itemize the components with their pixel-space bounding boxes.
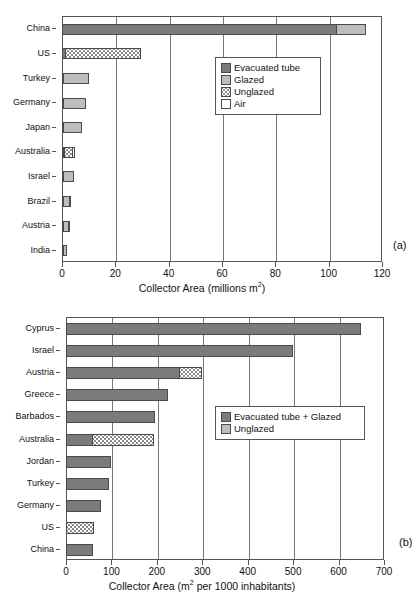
- bar-row: [67, 500, 383, 512]
- x-axis-tick: [202, 560, 203, 565]
- bar-row: [67, 544, 383, 556]
- y-axis-tick-label: Greece: [24, 389, 54, 399]
- x-axis-tick: [111, 560, 112, 565]
- x-axis-tick: [339, 560, 340, 565]
- bar-segment: [66, 434, 93, 446]
- legend-item: Air: [221, 98, 314, 110]
- legend-item: Unglazed: [221, 423, 358, 435]
- x-axis-tick-label: 100: [320, 268, 337, 279]
- legend-label: Evacuated tube: [234, 63, 300, 73]
- y-axis-tick: [56, 527, 60, 528]
- bar-segment: [69, 196, 71, 207]
- legend-swatch-icon: [221, 87, 231, 97]
- x-axis-tick-label: 400: [239, 566, 256, 577]
- bar-row: [63, 147, 381, 158]
- legend-swatch-icon: [221, 63, 231, 73]
- bar-row: [63, 171, 381, 182]
- legend-label: Evacuated tube + Glazed: [234, 412, 341, 422]
- chart-panel-a: ChinaUSTurkeyGermanyJapanAustraliaIsrael…: [0, 0, 404, 297]
- bar-segment: [179, 367, 203, 379]
- y-axis-tick: [56, 505, 60, 506]
- bar-row: [63, 122, 381, 133]
- x-axis-tick-label: 500: [285, 566, 302, 577]
- bar-segment: [72, 147, 75, 158]
- bar-row: [67, 345, 383, 357]
- y-axis-tick-label: Barbados: [15, 411, 54, 421]
- y-axis-tick: [56, 372, 60, 373]
- y-axis-tick-label: US: [37, 48, 50, 58]
- legend-item: Evacuated tube + Glazed: [221, 411, 358, 423]
- x-axis-title-b: Collector Area (m2 per 1000 inhabitants): [0, 579, 404, 592]
- x-axis-tick-label: 0: [63, 566, 69, 577]
- y-axis-tick-label: China: [26, 23, 50, 33]
- bar-segment: [66, 456, 111, 468]
- x-axis-tick: [157, 560, 158, 565]
- x-axis-tick: [382, 262, 383, 267]
- y-axis-tick-label: US: [41, 522, 54, 532]
- legend-label: Glazed: [234, 75, 264, 85]
- y-axis-tick-label: Brazil: [27, 196, 50, 206]
- y-axis-tick-label: Jordan: [26, 456, 54, 466]
- bar-segment: [62, 24, 337, 35]
- bar-segment: [66, 544, 93, 556]
- y-axis-tick: [52, 176, 56, 177]
- y-axis-tick: [56, 328, 60, 329]
- x-axis-tick: [293, 560, 294, 565]
- bar-row: [67, 478, 383, 490]
- x-axis-tick: [248, 560, 249, 565]
- legend-item: Glazed: [221, 74, 314, 86]
- bar-row: [67, 367, 383, 379]
- chart-panel-b: CyprusIsraelAustriaGreeceBarbadosAustral…: [0, 297, 404, 594]
- legend-item: Evacuated tube: [221, 62, 314, 74]
- bar-segment: [66, 323, 361, 335]
- y-axis-tick: [56, 416, 60, 417]
- x-axis-title-b-prefix: Collector Area (m: [109, 580, 190, 592]
- x-axis-title-a-prefix: Collector Area (millions m: [139, 282, 258, 294]
- bar-row: [63, 221, 381, 232]
- x-axis-tick-label: 80: [270, 268, 281, 279]
- y-axis-tick-label: India: [30, 245, 50, 255]
- y-axis-tick-label: Israel: [32, 345, 54, 355]
- y-axis-tick-label: Germany: [17, 500, 54, 510]
- bar-segment: [66, 522, 94, 534]
- x-axis-tick-label: 60: [216, 268, 227, 279]
- bar-series-a: [63, 17, 381, 261]
- legend-swatch-icon: [221, 412, 231, 422]
- y-axis-tick: [52, 151, 56, 152]
- y-axis-tick: [52, 225, 56, 226]
- x-axis-tick-label: 40: [163, 268, 174, 279]
- y-axis-tick-label: Japan: [25, 122, 50, 132]
- y-axis-tick-label: Austria: [22, 220, 50, 230]
- x-axis-tick: [169, 262, 170, 267]
- y-axis-tick: [52, 78, 56, 79]
- bar-row: [67, 389, 383, 401]
- y-axis-tick-label: Australia: [19, 434, 54, 444]
- legend-label: Air: [234, 99, 246, 109]
- y-axis-labels-b: CyprusIsraelAustriaGreeceBarbadosAustral…: [0, 317, 60, 560]
- x-axis-title-a-suffix: ): [262, 282, 266, 294]
- x-axis-tick-label: 700: [376, 566, 393, 577]
- y-axis-tick: [52, 53, 56, 54]
- y-axis-tick: [56, 394, 60, 395]
- x-axis-tick-label: 20: [110, 268, 121, 279]
- x-axis-title-b-suffix: per 1000 inhabitants): [194, 580, 296, 592]
- legend-a: Evacuated tubeGlazedUnglazedAir: [215, 57, 321, 115]
- panel-tag-a: (a): [393, 239, 406, 251]
- y-axis-tick: [56, 483, 60, 484]
- x-axis-tick: [384, 560, 385, 565]
- y-axis-tick-label: Germany: [13, 97, 50, 107]
- y-axis-tick: [52, 127, 56, 128]
- y-axis-tick-label: Turkey: [27, 478, 54, 488]
- x-axis-tick-label: 600: [330, 566, 347, 577]
- bar-row: [67, 456, 383, 468]
- bar-segment: [66, 478, 109, 490]
- bar-row: [63, 196, 381, 207]
- x-axis-tick: [62, 262, 63, 267]
- x-axis-title-a: Collector Area (millions m2): [0, 281, 404, 294]
- y-axis-tick-label: Austria: [26, 367, 54, 377]
- bar-segment: [66, 411, 155, 423]
- bar-segment: [65, 48, 141, 59]
- legend-item: Unglazed: [221, 86, 314, 98]
- y-axis-tick: [56, 549, 60, 550]
